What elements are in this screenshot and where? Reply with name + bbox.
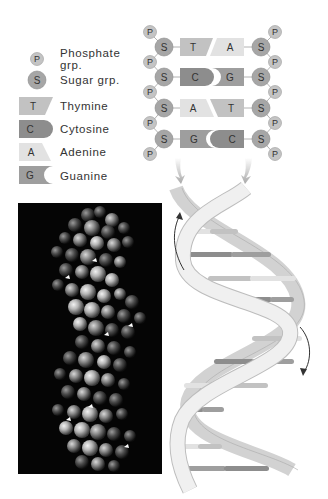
phosphate-symbol: P — [34, 54, 40, 64]
sugar-label: S — [161, 42, 168, 53]
cytosine-symbol: C — [26, 124, 33, 135]
phosphate-label: P — [272, 27, 278, 37]
guanine-icon — [19, 166, 53, 184]
base-label: C — [191, 72, 198, 83]
base-label: A — [190, 103, 197, 114]
dna-structure-diagram: P Phosphate grp. S Sugar grp. T Thymine … — [0, 0, 328, 499]
base-pair-row-1: T A — [180, 38, 244, 56]
adenine-symbol: A — [28, 147, 35, 158]
guanine-symbol: G — [26, 170, 34, 181]
legend-item-guanine: G Guanine — [19, 166, 108, 184]
legend-item-adenine: A Adenine — [19, 143, 106, 161]
base-label: G — [190, 134, 198, 145]
sugar-label: S — [258, 134, 265, 145]
base-pair-ladder: T A C G A T G C — [144, 26, 282, 185]
thymine-label: Thymine — [60, 100, 108, 112]
base-pair-row-4: G C — [180, 130, 244, 148]
thymine-symbol: T — [30, 101, 36, 112]
phosphate-label: P — [272, 57, 278, 67]
base-pair-row-2: C G — [180, 68, 244, 86]
phosphate-label: P — [272, 118, 278, 128]
cytosine-icon — [19, 120, 53, 138]
legend-item-sugar: S Sugar grp. — [28, 71, 120, 89]
phosphate-label: P — [272, 149, 278, 159]
sugar-symbol: S — [34, 75, 41, 86]
sugar-label: S — [258, 42, 265, 53]
phosphate-label: P — [147, 57, 153, 67]
legend-item-phosphate: P Phosphate grp. — [31, 47, 121, 71]
adenine-icon — [19, 143, 51, 161]
cytosine-label: Cytosine — [60, 123, 110, 135]
sugar-label: S — [258, 103, 265, 114]
guanine-label: Guanine — [60, 170, 108, 182]
drop-arrows-icon — [175, 158, 252, 184]
rotation-arrow-down-icon — [300, 327, 310, 376]
phosphate-label: P — [147, 87, 153, 97]
sugar-label: Sugar grp. — [60, 74, 120, 86]
phosphate-label: P — [272, 87, 278, 97]
legend-item-cytosine: C Cytosine — [19, 120, 110, 138]
thymine-base — [180, 38, 213, 56]
base-label: T — [228, 103, 234, 114]
base-label: T — [190, 42, 196, 53]
legend-item-thymine: T Thymine — [19, 97, 108, 115]
phosphate-label-line2: grp. — [60, 59, 82, 71]
adenine-base — [180, 99, 214, 117]
sugar-label: S — [161, 103, 168, 114]
sugar-label: S — [161, 134, 168, 145]
base-label: G — [226, 72, 234, 83]
sugar-label: S — [161, 72, 168, 83]
legend: P Phosphate grp. S Sugar grp. T Thymine … — [19, 47, 120, 184]
adenine-label: Adenine — [60, 146, 106, 158]
phosphate-label: P — [147, 118, 153, 128]
phosphate-label: P — [147, 149, 153, 159]
cytosine-base — [210, 130, 244, 148]
double-helix — [174, 188, 309, 490]
phosphate-label: Phosphate — [60, 47, 120, 59]
sugar-label: S — [258, 72, 265, 83]
base-pair-row-3: A T — [180, 99, 244, 117]
molecular-model-photo — [18, 203, 162, 474]
phosphate-label: P — [147, 27, 153, 37]
base-label: C — [228, 134, 235, 145]
base-label: A — [227, 42, 234, 53]
